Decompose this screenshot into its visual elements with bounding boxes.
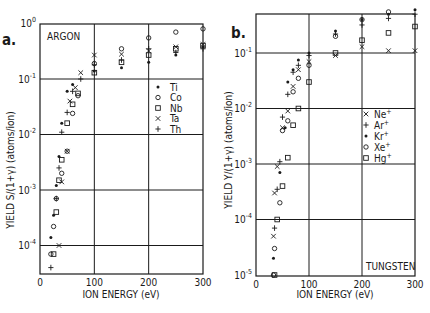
panel-b-tungsten: b. TUNGSTEN 10-110-210-310-410-5 0100200…	[223, 8, 424, 300]
series-xe-plus	[271, 10, 390, 277]
data-point-plus-marker	[285, 92, 290, 98]
panel-a-legend: TiCoNbTaTh	[155, 82, 182, 135]
x-tick-label: 0	[37, 277, 43, 288]
data-point-dot-marker	[93, 69, 96, 72]
data-point-square-marker	[54, 210, 59, 215]
data-point-plus-marker	[78, 76, 83, 82]
data-point-dot-marker	[49, 236, 52, 239]
data-point-dot-marker	[292, 68, 295, 71]
data-point-circle-marker	[174, 30, 178, 34]
data-point-plus-marker	[54, 196, 59, 202]
panel-a-y-axis-label: YIELD S/(1+γ) (atoms/ion)	[5, 111, 16, 230]
panel-b-y-ticks: 10-110-210-310-410-5	[234, 46, 252, 281]
data-point-plus-marker	[275, 187, 280, 193]
panel-a-x-axis-label: ION ENERGY (eV)	[82, 289, 159, 300]
data-point-square-marker	[386, 31, 391, 36]
panel-a-y-ticks: 10010-110-210-310-4	[18, 16, 36, 251]
data-point-x-marker	[272, 191, 277, 196]
y-tick-label: 10-4	[234, 212, 252, 225]
legend-x-marker	[364, 112, 369, 117]
data-point-dot-marker	[60, 122, 63, 125]
legend-item-ti: Ti	[157, 82, 178, 93]
data-point-x-marker	[271, 234, 276, 239]
data-point-square-marker	[280, 184, 285, 189]
data-point-dot-marker	[66, 90, 69, 93]
data-point-dot-marker	[120, 66, 123, 69]
legend-square-marker	[364, 156, 369, 161]
data-point-square-marker	[291, 123, 296, 128]
x-tick-label: 0	[253, 279, 259, 290]
data-point-x-marker	[78, 70, 83, 75]
series-ar-plus	[272, 11, 418, 230]
data-point-dot-marker	[286, 81, 289, 84]
legend-plus-marker	[363, 122, 368, 128]
legend-item-nb: Nb	[156, 103, 183, 114]
data-point-plus-marker	[48, 265, 53, 271]
legend-item-co: Co	[156, 92, 182, 103]
x-tick-label: 100	[86, 277, 103, 288]
legend-dot-marker	[365, 135, 368, 138]
panel-b-y-axis-label: YIELD Y/(1+γ) (atoms/ion)	[223, 91, 234, 209]
legend-label: Ta	[169, 113, 179, 124]
panel-b-data-points	[271, 8, 417, 277]
x-tick-label: 200	[140, 277, 157, 288]
data-point-dot-marker	[55, 184, 58, 187]
data-point-square-marker	[59, 158, 64, 163]
legend-label: Nb	[170, 103, 183, 114]
series-ta	[57, 42, 206, 248]
data-point-plus-marker	[65, 110, 70, 116]
panel-b-x-axis-label: ION ENERGY (eV)	[296, 289, 373, 300]
data-point-plus-marker	[70, 89, 75, 95]
legend-plus-marker	[155, 126, 160, 132]
data-point-square-marker	[65, 121, 70, 126]
data-point-plus-marker	[386, 16, 391, 22]
panel-a-title: ARGON	[47, 31, 80, 42]
panel-b-legend: Ne+Ar+Kr+Xe+Hg+	[363, 108, 391, 164]
data-point-dot-marker	[147, 61, 150, 64]
data-point-dot-marker	[297, 58, 300, 61]
data-point-circle-marker	[280, 128, 284, 132]
data-point-plus-marker	[359, 22, 364, 28]
data-point-dot-marker	[334, 29, 337, 32]
series-nb	[51, 43, 205, 256]
data-point-circle-marker	[60, 171, 64, 175]
data-point-circle-marker	[272, 246, 276, 250]
data-point-plus-marker	[280, 114, 285, 120]
data-point-x-marker	[65, 149, 70, 154]
panel-b-title: TUNGSTEN	[365, 261, 415, 272]
figure: a. ARGON 10010-110-210-310-4 0100200300 …	[0, 0, 430, 313]
data-point-plus-marker	[146, 46, 151, 52]
data-point-dot-marker	[308, 52, 311, 55]
y-tick-label: 10-4	[18, 238, 36, 251]
data-point-circle-marker	[296, 76, 300, 80]
y-tick-label: 10-1	[18, 72, 36, 85]
legend-circle-marker	[156, 95, 160, 99]
data-point-square-marker	[286, 155, 291, 160]
legend-square-marker	[156, 106, 161, 111]
y-tick-label: 10-2	[18, 127, 36, 140]
panel-a-argon: a. ARGON 10010-110-210-310-4 0100200300 …	[2, 16, 212, 300]
legend-x-marker	[156, 116, 161, 121]
legend-circle-marker	[364, 145, 368, 149]
data-point-x-marker	[73, 85, 78, 90]
y-tick-label: 100	[21, 16, 36, 29]
legend-label: Hg+	[374, 152, 392, 164]
series-kr-plus	[272, 8, 417, 259]
legend-label: Th	[169, 124, 181, 135]
data-point-x-marker	[119, 52, 124, 57]
legend-dot-marker	[157, 86, 160, 89]
data-point-circle-marker	[119, 47, 123, 51]
panel-a-label: a.	[2, 31, 16, 49]
data-point-x-marker	[386, 48, 391, 53]
series-ti	[49, 45, 204, 239]
data-point-plus-marker	[56, 165, 61, 171]
y-tick-label: 10-2	[234, 101, 252, 114]
data-point-plus-marker	[173, 50, 178, 56]
y-tick-label: 10-3	[234, 157, 252, 170]
data-point-plus-marker	[272, 225, 277, 231]
data-point-circle-marker	[291, 90, 295, 94]
y-tick-label: 10-1	[234, 46, 252, 59]
legend-label: Ti	[169, 82, 178, 93]
data-point-x-marker	[275, 164, 280, 169]
data-point-x-marker	[286, 109, 291, 114]
